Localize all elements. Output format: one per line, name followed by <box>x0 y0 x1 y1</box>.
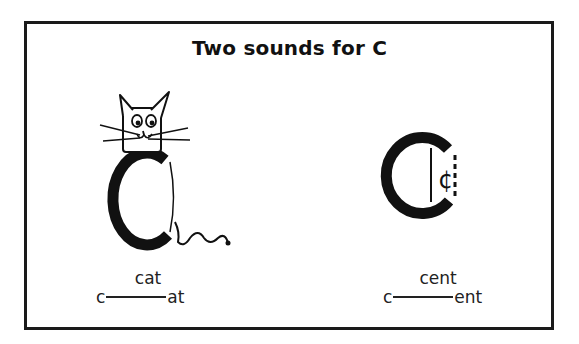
blend-line <box>106 296 166 298</box>
rime: ent <box>454 287 482 307</box>
segmented-word-cent: c ent <box>383 287 482 307</box>
svg-text:¢: ¢ <box>438 166 453 194</box>
segmented-word-cat: c at <box>96 287 184 307</box>
cent-sign-in-letter-c-icon: ¢ <box>386 138 455 214</box>
example-word-cent: cent <box>408 268 468 288</box>
rime: at <box>167 287 184 307</box>
onset-letter: c <box>96 287 105 307</box>
onset-letter: c <box>383 287 392 307</box>
example-word-cat: cat <box>123 268 173 288</box>
cat-on-letter-c-icon <box>100 92 231 246</box>
illustrations: ¢ <box>0 0 579 344</box>
blend-line <box>393 296 453 298</box>
